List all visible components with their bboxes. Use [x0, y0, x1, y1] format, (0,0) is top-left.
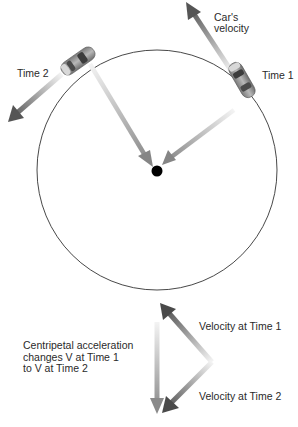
- car-time2-icon: [58, 44, 97, 77]
- velocity-time2-label: Velocity at Time 2: [199, 390, 281, 402]
- center-dot: [152, 166, 163, 177]
- time1-label: Time 1: [262, 69, 294, 81]
- cars-velocity-label: Car's velocity: [214, 12, 249, 34]
- diagram-canvas: Car's velocity Time 1 Time 2 Velocity at…: [0, 0, 298, 427]
- triangle-velocity-time1-arrow: [160, 303, 212, 362]
- car-time1-icon: [226, 60, 257, 100]
- velocity-arrow-time2: [8, 74, 62, 122]
- time2-label: Time 2: [17, 67, 49, 79]
- centripetal-line1: Centripetal acceleration: [23, 340, 133, 352]
- radial-arrow-time2: [90, 64, 153, 167]
- triangle-velocity-time2-arrow: [162, 362, 212, 413]
- radial-arrow-time1: [162, 110, 234, 165]
- cars-velocity-line2: velocity: [214, 23, 249, 34]
- centripetal-caption: Centripetal acceleration changes V at Ti…: [23, 340, 133, 375]
- velocity-time1-label: Velocity at Time 1: [199, 320, 281, 332]
- centripetal-line3: to V at Time 2: [23, 363, 133, 375]
- acceleration-arrow: [150, 322, 164, 414]
